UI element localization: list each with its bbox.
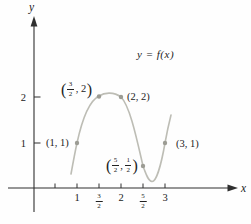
fraction-denominator: 2: [69, 90, 73, 98]
function-title: y = f(x): [137, 48, 174, 60]
open-paren: (: [61, 81, 66, 97]
fraction-numerator: 5: [140, 193, 147, 202]
point-1-1: [75, 141, 79, 145]
fraction-numerator: 5: [112, 157, 119, 166]
fraction-denominator: 2: [126, 166, 130, 174]
fraction-denominator: 2: [141, 202, 145, 210]
fraction-denominator: 2: [97, 202, 101, 210]
point-label-1-1: (1, 1): [46, 137, 69, 149]
point-label-3-2-2: ( 3 2 , 2 ): [61, 81, 92, 98]
y-tick-label-2: 2: [14, 92, 26, 104]
fraction-3-2: 3 2: [67, 81, 74, 98]
y-axis-label: y: [29, 1, 34, 14]
function-graph-figure: y x y = f(x) 2 1 1 3 2 2 5 2 3 (1, 1) ( …: [0, 0, 251, 224]
x-axis-label: x: [241, 182, 246, 195]
x-tick-label-2: 2: [118, 192, 123, 204]
close-paren: ): [132, 157, 137, 173]
point-2-2: [119, 95, 123, 99]
fraction-1-2: 1 2: [125, 157, 132, 174]
point-3-2-2: [97, 94, 101, 98]
fraction-numerator: 3: [67, 81, 74, 90]
label-text: , 2: [76, 84, 87, 95]
point-label-3-1: (3, 1): [176, 138, 199, 150]
x-tick-label-3-2: 3 2: [96, 193, 103, 210]
x-tick-label-1: 1: [74, 192, 79, 204]
open-paren: (: [106, 157, 111, 173]
y-tick-label-1: 1: [14, 138, 26, 150]
point-3-1: [163, 141, 167, 145]
x-tick-label-3: 3: [162, 192, 167, 204]
graph-canvas: [0, 0, 251, 224]
fraction-numerator: 3: [96, 193, 103, 202]
fraction-denominator: 2: [114, 166, 118, 174]
comma: ,: [120, 161, 123, 175]
point-label-2-2: (2, 2): [127, 91, 150, 103]
point-5-2-1-2: [141, 164, 145, 168]
point-label-5-2-1-2: ( 5 2 , 1 2 ): [106, 157, 138, 174]
x-tick-label-5-2: 5 2: [140, 193, 147, 210]
close-paren: ): [87, 81, 92, 97]
fraction-numerator: 1: [125, 157, 132, 166]
x-axis-arrow-icon: [228, 185, 239, 192]
x-axis-ticks: [55, 184, 165, 189]
fraction-5-2: 5 2: [112, 157, 119, 174]
y-axis-arrow-icon: [31, 16, 38, 27]
y-axis-ticks: [34, 97, 41, 143]
